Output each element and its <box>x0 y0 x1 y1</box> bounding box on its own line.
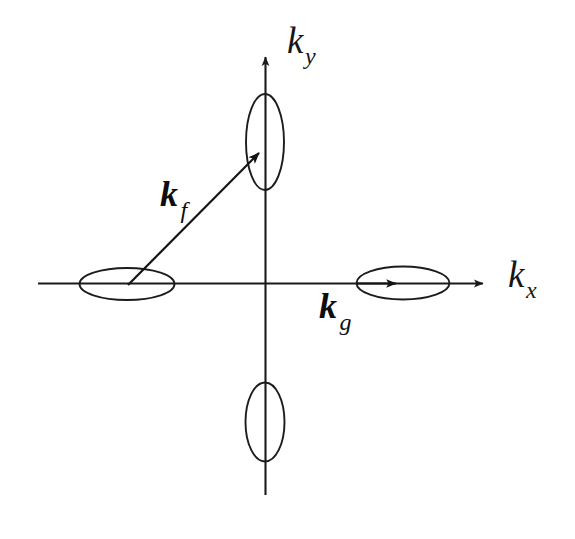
kg-label-subscript: g <box>340 309 352 335</box>
ky-label-subscript: y <box>305 43 316 69</box>
ky-axis-label: ky <box>287 22 315 59</box>
kg-label-base: k <box>319 286 338 326</box>
kf-label-subscript: f <box>181 197 188 223</box>
figure-background <box>0 0 575 539</box>
kx-label-base: k <box>508 254 525 295</box>
kx-axis-label: kx <box>508 256 536 293</box>
kf-vector-label: kf <box>160 176 185 212</box>
kspace-diagram: ky kx kf kg <box>0 0 575 539</box>
ky-label-base: k <box>287 20 304 61</box>
kx-label-subscript: x <box>526 277 537 303</box>
kg-vector-label: kg <box>319 288 350 324</box>
diagram-canvas <box>0 0 575 539</box>
kf-label-base: k <box>160 174 179 214</box>
